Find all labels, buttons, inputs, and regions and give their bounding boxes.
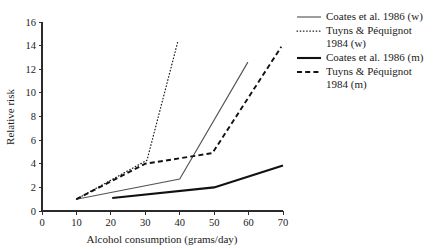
legend-swatch-solid-thick-icon <box>296 51 322 64</box>
x-tick-label-50: 50 <box>209 217 220 228</box>
x-tick-label-30: 30 <box>140 217 151 228</box>
x-tick-label-20: 20 <box>106 217 117 228</box>
y-tick-label-14: 14 <box>26 40 37 51</box>
y-tick-label-16: 16 <box>26 17 37 28</box>
x-tick-label-0: 0 <box>39 217 44 228</box>
y-tick-label-6: 6 <box>31 135 36 146</box>
chart-figure: 0246810121416010203040506070 Alcohol con… <box>0 0 439 249</box>
legend-label-2: Coates et al. 1986 (m) <box>326 51 423 64</box>
x-tick-label-70: 70 <box>278 217 289 228</box>
x-tick-label-10: 10 <box>71 217 82 228</box>
x-tick-label-40: 40 <box>174 217 185 228</box>
chart-legend: Coates et al. 1986 (w)Tuyns & Péquignot … <box>296 10 438 92</box>
x-tick-label-60: 60 <box>243 217 254 228</box>
legend-item-1[interactable]: Tuyns & Péquignot 1984 (w) <box>296 24 438 50</box>
legend-swatch-dashed-icon <box>296 65 322 78</box>
legend-swatch-dotted-icon <box>296 24 322 37</box>
legend-label-0: Coates et al. 1986 (w) <box>326 10 423 23</box>
series-line-0 <box>76 62 247 199</box>
x-axis-title: Alcohol consumption (grams/day) <box>87 233 238 246</box>
legend-item-0[interactable]: Coates et al. 1986 (w) <box>296 10 438 23</box>
y-tick-label-12: 12 <box>26 64 37 75</box>
legend-label-3: Tuyns & Péquignot 1984 (m) <box>326 65 412 91</box>
y-axis-title: Relative risk <box>4 89 16 145</box>
axes-group: 0246810121416010203040506070 <box>26 17 289 228</box>
y-tick-label-8: 8 <box>31 111 36 122</box>
legend-item-3[interactable]: Tuyns & Péquignot 1984 (m) <box>296 65 438 91</box>
y-tick-label-2: 2 <box>31 182 36 193</box>
y-tick-label-0: 0 <box>31 206 36 217</box>
series-line-1 <box>76 41 178 199</box>
series-line-2 <box>112 166 283 198</box>
legend-label-1: Tuyns & Péquignot 1984 (w) <box>326 24 412 50</box>
series-group <box>76 41 283 199</box>
y-tick-label-10: 10 <box>26 87 37 98</box>
legend-swatch-solid-thin-icon <box>296 10 322 23</box>
y-tick-label-4: 4 <box>31 158 37 169</box>
legend-item-2[interactable]: Coates et al. 1986 (m) <box>296 51 438 64</box>
